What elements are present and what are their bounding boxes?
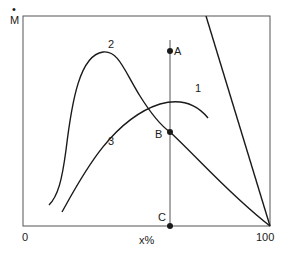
x-axis-label: x% xyxy=(139,234,155,246)
diagram-canvas: A B C 1 2 3 • M x% 0 100 xyxy=(0,0,290,258)
x-tick-100: 100 xyxy=(256,231,274,243)
curve-2-label: 2 xyxy=(108,38,114,50)
point-c-label: C xyxy=(158,211,166,223)
x-tick-0: 0 xyxy=(22,231,28,243)
curve-1-label: 1 xyxy=(195,82,201,94)
point-c xyxy=(167,223,173,229)
y-axis-label: M xyxy=(10,14,19,26)
curve-3 xyxy=(62,102,208,212)
point-b xyxy=(167,129,173,135)
line-1 xyxy=(206,16,270,226)
curve-3-label: 3 xyxy=(108,135,114,147)
point-b-label: B xyxy=(155,128,162,140)
point-a xyxy=(167,48,173,54)
point-a-label: A xyxy=(174,45,182,57)
